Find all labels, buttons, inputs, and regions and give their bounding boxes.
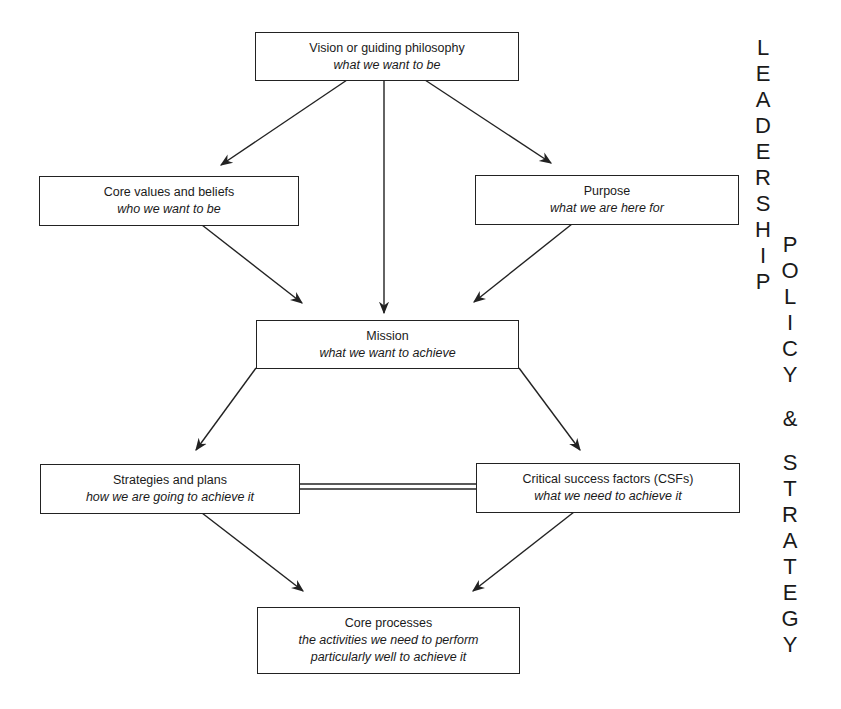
core-processes-box: Core processes the activities we need to…: [257, 607, 520, 674]
strategies-subtitle: how we are going to achieve it: [86, 489, 254, 506]
mission-box: Mission what we want to achieve: [256, 320, 519, 369]
arrow-purpose-to-mission: [474, 224, 572, 302]
strategies-box: Strategies and plans how we are going to…: [40, 464, 300, 514]
strategies-title: Strategies and plans: [113, 472, 227, 489]
arrow-core-values-to-mission: [202, 225, 302, 303]
csfs-subtitle: what we need to achieve it: [534, 488, 681, 505]
vision-subtitle: what we want to be: [333, 57, 440, 74]
purpose-subtitle: what we are here for: [550, 200, 664, 217]
csfs-box: Critical success factors (CSFs) what we …: [476, 463, 740, 513]
arrow-csfs-to-core-processes: [473, 512, 574, 591]
vision-title: Vision or guiding philosophy: [309, 40, 464, 57]
arrow-mission-to-strategies: [196, 368, 256, 450]
purpose-title: Purpose: [584, 183, 631, 200]
vision-box: Vision or guiding philosophy what we wan…: [255, 32, 519, 81]
arrow-vision-to-core-values: [221, 80, 347, 165]
mission-title: Mission: [366, 328, 408, 345]
purpose-box: Purpose what we are here for: [475, 175, 739, 225]
arrow-mission-to-csfs: [519, 368, 580, 450]
mission-subtitle: what we want to achieve: [319, 345, 455, 362]
arrow-strategies-to-core-processes: [202, 513, 303, 591]
core-processes-title: Core processes: [345, 615, 433, 632]
core-processes-subtitle-line1: the activities we need to perform: [299, 632, 479, 649]
arrow-vision-to-purpose: [425, 80, 551, 163]
policy-strategy-label: P O L I C Y & S T R A T E G Y: [779, 232, 801, 658]
core-values-subtitle: who we want to be: [117, 201, 221, 218]
csfs-title: Critical success factors (CSFs): [523, 471, 694, 488]
leadership-label: L E A D E R S H I P: [752, 35, 774, 295]
ampersand: &: [783, 406, 798, 432]
core-values-box: Core values and beliefs who we want to b…: [39, 176, 299, 226]
core-processes-subtitle-line2: particularly well to achieve it: [311, 649, 467, 666]
core-values-title: Core values and beliefs: [104, 184, 235, 201]
